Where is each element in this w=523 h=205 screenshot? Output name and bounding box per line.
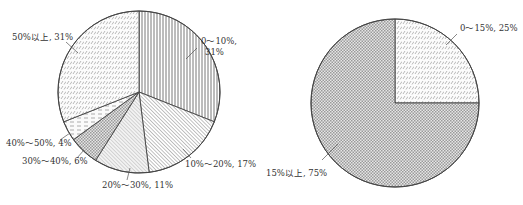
slice-label: 0～10%,31%	[201, 36, 237, 57]
slice-label: 40%～50%, 4%	[6, 138, 72, 148]
slice-label: 30%～40%, 6%	[22, 156, 88, 166]
slice-label: 20%～30%, 11%	[102, 180, 173, 190]
slice-label: 15%以上, 75%	[266, 168, 327, 178]
pie-chart-right: 0～15%, 25%15%以上, 75%	[266, 19, 518, 187]
pie-chart-left: 0～10%,31%10%～20%, 17%20%～30%, 11%30%～40%…	[6, 11, 256, 190]
slice-label: 50%以上, 31%	[12, 32, 73, 42]
pie-charts-canvas: 0～10%,31%10%～20%, 17%20%～30%, 11%30%～40%…	[0, 0, 523, 205]
slice-label: 10%～20%, 17%	[185, 159, 256, 169]
slice-label: 0～15%, 25%	[460, 23, 518, 33]
